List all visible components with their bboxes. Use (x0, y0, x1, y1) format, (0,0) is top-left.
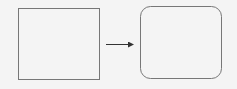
square-node (19, 9, 100, 80)
diagram-canvas (0, 0, 237, 89)
rounded-square-node (141, 7, 222, 79)
